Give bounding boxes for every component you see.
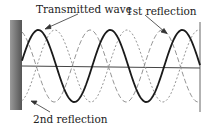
arrow-first-reflection [145, 15, 167, 34]
arrow-transmitted [45, 14, 78, 29]
label-transmitted-wave: Transmitted wave [36, 4, 132, 15]
arrow-second-reflection [31, 101, 50, 112]
wall [10, 20, 22, 110]
horizontal-axis [22, 66, 200, 68]
wave-diagram [0, 0, 208, 128]
label-first-reflection: 1st reflection [126, 6, 197, 17]
label-second-reflection: 2nd reflection [33, 114, 108, 125]
